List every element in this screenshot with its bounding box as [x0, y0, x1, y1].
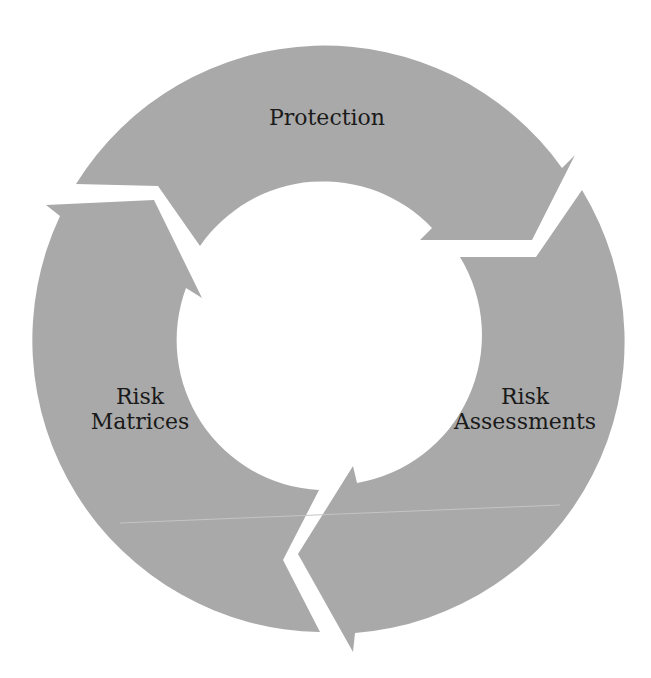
step-label-risk-assessments: Risk Assessments: [440, 384, 610, 434]
step-label-risk-matrices: Risk Matrices: [75, 384, 205, 434]
step-label-line: Assessments: [440, 409, 610, 434]
cycle-diagram: Protection Risk Assessments Risk Matrice…: [0, 0, 651, 678]
step-label-line: Protection: [262, 105, 392, 130]
cycle-arrows: [0, 0, 651, 678]
step-label-line: Matrices: [75, 409, 205, 434]
step-label-line: Risk: [75, 384, 205, 409]
step-label-line: Risk: [440, 384, 610, 409]
step-label-protection: Protection: [262, 105, 392, 130]
